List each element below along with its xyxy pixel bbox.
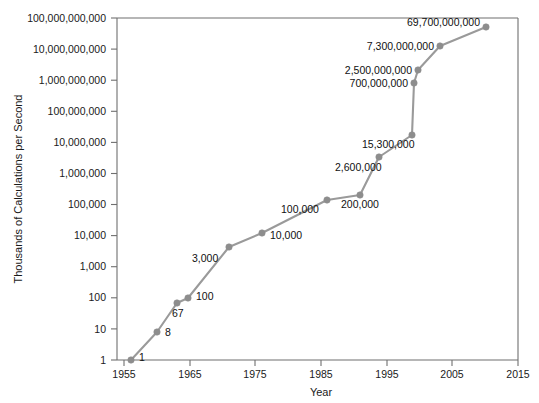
- data-point-10000: [259, 230, 265, 236]
- data-point-2600000: [376, 154, 382, 160]
- x-tick-label-1955: 1955: [112, 368, 136, 380]
- data-label-200000: 200,000: [341, 198, 379, 210]
- x-axis-title: Year: [310, 386, 333, 398]
- y-tick-label-100: 100: [88, 291, 106, 303]
- data-label-2500000000: 2,500,000,000: [345, 64, 412, 76]
- y-tick-label-10000: 10,000: [74, 229, 106, 241]
- data-label-2600000: 2,600,000: [335, 161, 382, 173]
- data-label-15300000: 15,300,000: [362, 138, 415, 150]
- y-tick-label-100000000: 100,000,000: [48, 105, 107, 117]
- y-tick-label-10000000: 10,000,000: [53, 136, 106, 148]
- data-point-100000: [324, 197, 330, 203]
- x-tick-label-2005: 2005: [440, 368, 464, 380]
- x-tick-label-2015: 2015: [506, 368, 530, 380]
- data-point-100: [185, 295, 191, 301]
- data-label-3000: 3,000: [192, 252, 218, 264]
- y-tick-label-10000000000: 10,000,000,000: [33, 43, 106, 55]
- data-label-7300000000: 7,300,000,000: [367, 40, 434, 52]
- data-label-100: 100: [196, 290, 214, 302]
- data-point-3000: [226, 244, 232, 250]
- chart-container: 1 10 100 1,000 10,000 100,000 1,000,000 …: [0, 0, 539, 403]
- y-axis-title: Thousands of Calculations per Second: [12, 95, 24, 284]
- data-label-8: 8: [165, 326, 171, 338]
- x-tick-label-1985: 1985: [309, 368, 333, 380]
- x-tick-label-1995: 1995: [375, 368, 399, 380]
- x-tick-label-1965: 1965: [178, 368, 202, 380]
- data-point-700000000: [411, 80, 417, 86]
- line-chart-svg: 1 10 100 1,000 10,000 100,000 1,000,000 …: [0, 0, 539, 403]
- y-tick-label-100000000000: 100,000,000,000: [27, 12, 106, 24]
- y-tick-label-1000: 1,000: [80, 260, 106, 272]
- data-point-7300000000: [437, 43, 443, 49]
- data-label-69700000000: 69,700,000,000: [407, 16, 480, 28]
- y-tick-label-1: 1: [100, 354, 106, 366]
- data-label-100000: 100,000: [281, 203, 319, 215]
- y-tick-label-1000000000: 1,000,000,000: [39, 74, 106, 86]
- data-point-69700000000: [483, 24, 489, 30]
- data-point-8: [154, 329, 160, 335]
- y-tick-label-1000000: 1,000,000: [59, 167, 106, 179]
- data-label-1: 1: [139, 351, 145, 363]
- data-point-67: [174, 300, 180, 306]
- y-tick-label-10: 10: [94, 323, 106, 335]
- data-label-10000: 10,000: [270, 229, 302, 241]
- data-label-700000000: 700,000,000: [350, 77, 409, 89]
- data-label-67: 67: [172, 307, 184, 319]
- x-tick-label-1975: 1975: [243, 368, 267, 380]
- y-tick-label-100000: 100,000: [68, 198, 106, 210]
- data-point-1: [128, 357, 134, 363]
- data-point-2500000000: [415, 67, 421, 73]
